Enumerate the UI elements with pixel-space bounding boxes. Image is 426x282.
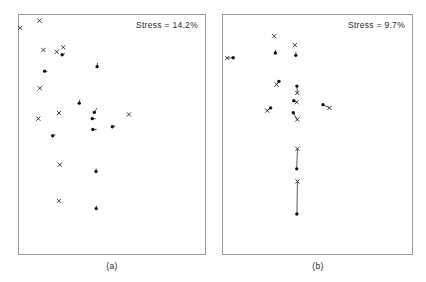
dot-marker	[292, 111, 295, 114]
cross-marker	[58, 163, 62, 167]
dot-marker	[295, 212, 298, 215]
plot-panel-a: Stress = 14.2%	[18, 14, 206, 255]
dot-marker	[91, 117, 94, 120]
dot-marker	[292, 99, 295, 102]
dot-marker	[43, 69, 46, 72]
pair-connector	[297, 181, 298, 214]
cross-marker	[55, 50, 59, 54]
dot-marker	[111, 125, 114, 128]
panel-caption-a: (a)	[82, 261, 142, 271]
cross-marker	[38, 86, 42, 90]
plot-panel-b: Stress = 9.7%	[222, 14, 413, 255]
scatter-plot-b	[223, 15, 412, 254]
dot-marker	[51, 134, 54, 137]
dot-marker	[95, 207, 98, 210]
dot-marker	[295, 167, 298, 170]
dot-marker	[294, 54, 297, 57]
cross-marker	[36, 117, 40, 121]
cross-marker	[295, 117, 299, 121]
dot-marker	[269, 106, 272, 109]
dot-marker	[321, 103, 324, 106]
cross-marker	[57, 111, 61, 115]
cross-marker	[327, 106, 331, 110]
dot-marker	[93, 111, 96, 114]
dot-marker	[274, 51, 277, 54]
cross-marker	[57, 199, 61, 203]
mds-figure: Stress = 14.2% Stress = 9.7% (a) (b)	[0, 0, 426, 282]
panel-caption-b: (b)	[288, 261, 348, 271]
pair-connector	[297, 149, 298, 169]
dot-marker	[232, 56, 235, 59]
dot-marker	[78, 101, 81, 104]
dot-marker	[91, 128, 94, 131]
dot-marker	[95, 65, 98, 68]
dot-marker	[295, 84, 298, 87]
cross-marker	[272, 34, 276, 38]
dot-marker	[277, 80, 280, 83]
cross-marker	[41, 48, 45, 52]
dot-marker	[60, 53, 63, 56]
cross-marker	[274, 83, 278, 87]
cross-marker	[61, 45, 65, 49]
cross-marker	[18, 26, 22, 30]
cross-marker	[293, 43, 297, 47]
cross-marker	[127, 112, 131, 116]
dot-marker	[94, 170, 97, 173]
cross-marker	[265, 109, 269, 113]
scatter-plot-a	[19, 15, 205, 254]
cross-marker	[37, 19, 41, 23]
